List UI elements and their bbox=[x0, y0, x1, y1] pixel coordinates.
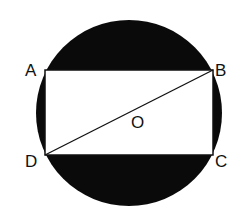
label-b: B bbox=[215, 61, 226, 80]
label-a: A bbox=[25, 61, 37, 80]
label-c: C bbox=[215, 152, 227, 171]
label-o-center: O bbox=[131, 113, 144, 132]
inscribed-rectangle-diagram: A B C D O bbox=[0, 0, 245, 210]
label-d: D bbox=[25, 152, 37, 171]
